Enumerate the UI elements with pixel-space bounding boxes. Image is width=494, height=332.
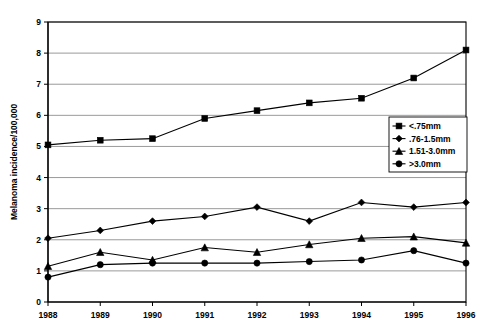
x-tick-label-1991: 1991 — [195, 310, 214, 320]
y-tick-label-9: 9 — [36, 17, 41, 27]
data-point-s1-1996 — [463, 47, 469, 53]
legend-label-2: .76-1.5mm — [409, 134, 451, 144]
y-tick-label-8: 8 — [36, 48, 41, 58]
data-point-s1-1992 — [254, 108, 260, 114]
data-point-s4-1992 — [254, 260, 260, 266]
data-point-s4-1993 — [306, 258, 312, 264]
y-tick-label-6: 6 — [36, 110, 41, 120]
legend-marker-4 — [396, 161, 402, 167]
melanoma-incidence-chart: 0123456789 19881989199019911992199319941… — [0, 0, 494, 332]
chart-legend[interactable]: <.75mm.76-1.5mm1.51-3.0mm>3.0mm — [389, 117, 467, 172]
y-axis-title: Melanoma incidence/100,000 — [9, 104, 19, 220]
data-point-s1-1990 — [150, 136, 156, 142]
y-axis-title-group: Melanoma incidence/100,000 — [9, 104, 19, 220]
x-tick-labels-group: 198819891990199119921993199419951996 — [39, 310, 476, 320]
data-point-s1-1991 — [202, 116, 208, 122]
y-tick-label-4: 4 — [36, 173, 41, 183]
data-point-s1-1989 — [97, 137, 103, 143]
x-tick-label-1989: 1989 — [91, 310, 110, 320]
x-tick-label-1993: 1993 — [300, 310, 319, 320]
y-tick-label-7: 7 — [36, 79, 41, 89]
x-tick-label-1996: 1996 — [457, 310, 476, 320]
data-point-s1-1995 — [411, 75, 417, 81]
y-tick-label-0: 0 — [36, 297, 41, 307]
y-tick-label-2: 2 — [36, 235, 41, 245]
chart-canvas: 0123456789 19881989199019911992199319941… — [0, 0, 494, 332]
data-point-s4-1995 — [411, 248, 417, 254]
data-point-s1-1994 — [359, 95, 365, 101]
x-tick-label-1988: 1988 — [39, 310, 58, 320]
data-point-s4-1990 — [149, 260, 155, 266]
legend-label-1: <.75mm — [409, 121, 441, 131]
x-tick-label-1995: 1995 — [404, 310, 423, 320]
y-tick-label-3: 3 — [36, 204, 41, 214]
x-tick-label-1994: 1994 — [352, 310, 371, 320]
x-tick-label-1992: 1992 — [248, 310, 267, 320]
data-point-s4-1996 — [463, 260, 469, 266]
legend-label-4: >3.0mm — [409, 159, 441, 169]
data-point-s4-1994 — [358, 257, 364, 263]
legend-label-3: 1.51-3.0mm — [409, 146, 456, 156]
y-tick-label-5: 5 — [36, 141, 41, 151]
y-tick-label-1: 1 — [36, 266, 41, 276]
data-point-s1-1993 — [306, 100, 312, 106]
x-tick-label-1990: 1990 — [143, 310, 162, 320]
legend-marker-1 — [396, 123, 402, 129]
data-point-s4-1991 — [202, 260, 208, 266]
data-point-s4-1989 — [97, 262, 103, 268]
